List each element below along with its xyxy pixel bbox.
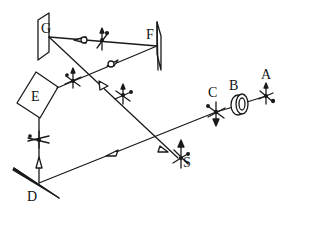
polarization-mark-ef [65, 68, 81, 88]
label-e: E [31, 90, 40, 104]
beam-c-d [39, 112, 216, 183]
polarization-mark-fg [97, 28, 108, 50]
arrow-icon-cd [106, 150, 118, 156]
polarization-mark-a [259, 83, 275, 104]
label-d: D [27, 190, 37, 204]
polarizer-b [231, 94, 248, 115]
arrow-icon-gs [99, 81, 108, 90]
arrow-icon-ef [107, 60, 118, 67]
label-s: S [183, 156, 191, 170]
polarization-mark-de [28, 131, 49, 148]
label-b: B [229, 79, 238, 93]
arrow-icon-fg [74, 37, 87, 43]
label-g: G [41, 22, 51, 36]
label-a: A [261, 68, 271, 82]
label-c: C [208, 86, 217, 100]
arrow-icon-de [36, 157, 42, 168]
label-f: F [146, 28, 154, 42]
